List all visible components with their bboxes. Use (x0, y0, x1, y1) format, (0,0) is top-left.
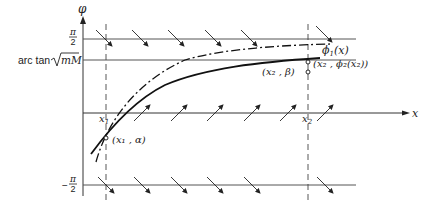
x1-label: x1 (99, 113, 109, 126)
svg-text:2: 2 (70, 184, 75, 194)
pi-over-2-label: π 2 (69, 27, 77, 47)
point-x2-phi2 (306, 60, 310, 64)
x-axis (83, 111, 410, 116)
arctan-label: arc tan mM (18, 53, 82, 66)
phi-axis (80, 16, 86, 196)
point-x1-alpha-label: (x₁ , α) (112, 134, 146, 145)
svg-text:π: π (69, 27, 77, 37)
point-x2-phi2-label: (x₂ , ϕ₂(x₂)) (313, 58, 368, 69)
point-x2-beta (306, 70, 310, 74)
svg-text:−: − (62, 180, 68, 191)
phi1-label: ϕ1(x) (322, 44, 349, 58)
direction-field-upper (96, 26, 332, 46)
x2-label: x2 (302, 113, 313, 126)
phi-axis-label: φ (78, 2, 87, 16)
x-axis-label: x (412, 107, 419, 120)
svg-text:arc tan: arc tan (18, 54, 50, 66)
x-axis-arrow-icon (402, 111, 410, 116)
point-x1-alpha (104, 136, 108, 140)
phi-axis-arrow-icon (80, 16, 86, 24)
diagram-canvas: φ x π 2 arc tan mM − π 2 x1 x2 (0, 0, 429, 216)
svg-text:mM: mM (61, 54, 82, 66)
svg-text:2: 2 (70, 37, 75, 47)
point-x2-beta-label: (x₂ , β) (262, 66, 295, 77)
svg-text:π: π (69, 174, 77, 184)
minus-pi-over-2-label: − π 2 (62, 174, 77, 194)
